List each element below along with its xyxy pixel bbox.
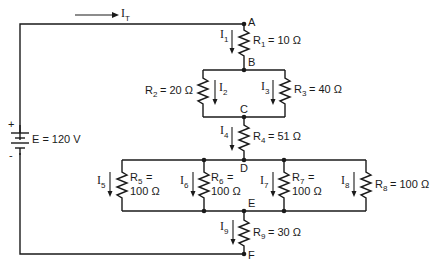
r6-label: R xyxy=(211,171,219,183)
r9-subscript: 9 xyxy=(261,232,266,241)
total-current-subscript: T xyxy=(125,14,130,23)
resistor-r1: I 1 R 1 = 10 Ω xyxy=(220,24,301,70)
r2-label: R xyxy=(145,84,153,96)
r5-equals: = xyxy=(146,171,152,183)
total-current-arrow: I T xyxy=(75,6,130,23)
node-f xyxy=(242,252,247,257)
i6-subscript: 6 xyxy=(184,181,189,190)
r4-label: R xyxy=(253,130,261,142)
r3-label: R xyxy=(294,83,302,95)
resistor-r6: I 6 R 6 = 100 Ω xyxy=(180,160,241,211)
i1-subscript: 1 xyxy=(224,35,229,44)
resistor-r7: I 7 R 7 = 100 Ω xyxy=(260,160,322,211)
r5-label: R xyxy=(130,171,138,183)
circuit-diagram: I T + - E = 120 V A I 1 R 1 = 10 Ω B xyxy=(0,0,435,266)
i3-subscript: 3 xyxy=(265,87,270,96)
node-f-label: F xyxy=(248,249,255,261)
r8-value: = 100 Ω xyxy=(390,178,429,190)
r1-value: = 10 Ω xyxy=(268,34,301,46)
r8-label: R xyxy=(375,178,383,190)
resistor-r5: I 5 R 5 = 100 Ω xyxy=(97,160,160,211)
r2-subscript: 2 xyxy=(153,90,158,99)
r9-value: = 30 Ω xyxy=(268,226,301,238)
r9-label: R xyxy=(253,226,261,238)
minus-sign: - xyxy=(9,149,13,161)
r6-value: 100 Ω xyxy=(211,185,241,197)
r3-subscript: 3 xyxy=(302,89,307,98)
source-voltage-label: E = 120 V xyxy=(32,133,81,145)
r6-equals: = xyxy=(227,171,233,183)
r7-label: R xyxy=(292,171,300,183)
r1-label: R xyxy=(253,34,261,46)
resistor-r3: I 3 R 3 = 40 Ω xyxy=(261,70,342,117)
resistor-r2: I 2 R 2 = 20 Ω xyxy=(145,70,228,117)
node-e-label: E xyxy=(248,197,255,209)
r1-subscript: 1 xyxy=(261,40,266,49)
battery-source: + - E = 120 V xyxy=(8,118,81,161)
i5-subscript: 5 xyxy=(101,181,106,190)
i2-subscript: 2 xyxy=(223,88,228,97)
resistor-r4: I 4 R 4 = 51 Ω xyxy=(220,117,301,160)
r3-value: = 40 Ω xyxy=(309,83,342,95)
resistor-r8: I 8 R 8 = 100 Ω xyxy=(341,160,429,211)
r5-value: 100 Ω xyxy=(130,185,160,197)
i8-subscript: 8 xyxy=(345,181,350,190)
node-c-label: C xyxy=(240,103,248,115)
plus-sign: + xyxy=(8,118,14,130)
r4-value: = 51 Ω xyxy=(268,130,301,142)
r2-value: = 20 Ω xyxy=(160,84,193,96)
i9-subscript: 9 xyxy=(224,227,229,236)
i4-subscript: 4 xyxy=(224,131,229,140)
r4-subscript: 4 xyxy=(261,136,266,145)
resistor-r9: I 9 R 9 = 30 Ω xyxy=(220,211,301,254)
r7-value: 100 Ω xyxy=(292,185,322,197)
r7-equals: = xyxy=(308,171,314,183)
node-d-label: D xyxy=(240,162,248,174)
r8-subscript: 8 xyxy=(383,184,388,193)
i7-subscript: 7 xyxy=(264,181,269,190)
node-a-label: A xyxy=(248,16,256,28)
node-b-label: B xyxy=(248,56,255,68)
